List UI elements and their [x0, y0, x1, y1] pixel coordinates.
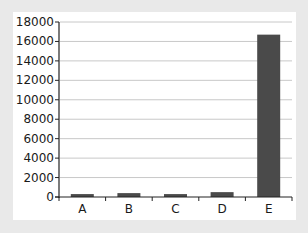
y-tick-label: 8000: [23, 112, 54, 126]
y-axis: 0200040006000800010000120001400016000180…: [16, 15, 59, 204]
x-category-label: E: [265, 202, 273, 216]
bar-chart: 0200040006000800010000120001400016000180…: [0, 0, 308, 233]
x-category-label: A: [78, 202, 87, 216]
y-tick-label: 10000: [16, 93, 54, 107]
x-category-label: D: [217, 202, 226, 216]
x-category-label: C: [171, 202, 179, 216]
y-tick-label: 12000: [16, 73, 54, 87]
bars: [71, 35, 280, 197]
x-axis: ABCDE: [55, 197, 292, 216]
y-tick-label: 4000: [23, 151, 54, 165]
y-tick-label: 2000: [23, 171, 54, 185]
bar-e: [257, 35, 280, 197]
y-tick-label: 0: [46, 190, 54, 204]
x-category-label: B: [125, 202, 133, 216]
y-tick-label: 6000: [23, 132, 54, 146]
y-tick-label: 18000: [16, 15, 54, 29]
y-tick-label: 16000: [16, 34, 54, 48]
bar-d: [211, 192, 234, 197]
y-tick-label: 14000: [16, 54, 54, 68]
